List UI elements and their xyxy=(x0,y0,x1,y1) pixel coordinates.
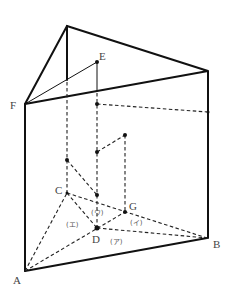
label-A: A xyxy=(13,274,21,286)
point-dot xyxy=(65,158,69,162)
point-dot xyxy=(95,102,99,106)
point-D xyxy=(95,226,100,231)
prism-diagram: A B C D E F G (ア) (イ) (ウ) (エ) xyxy=(0,0,233,298)
region-label-e: (エ) xyxy=(66,221,79,229)
edge-AC xyxy=(25,193,67,271)
region-label-a: (ア) xyxy=(110,238,123,246)
point-G xyxy=(123,210,127,214)
label-F: F xyxy=(10,99,16,111)
edge-CB xyxy=(67,193,207,238)
point-dot xyxy=(95,193,99,197)
projection-segment-2 xyxy=(67,160,97,195)
point-C xyxy=(66,192,69,195)
region-label-i: (イ) xyxy=(130,219,143,227)
point-dot xyxy=(95,150,99,154)
label-D: D xyxy=(92,233,100,245)
point-dot xyxy=(123,133,127,137)
region-label-u: (ウ) xyxy=(91,209,104,217)
label-B: B xyxy=(213,238,220,250)
label-E: E xyxy=(99,50,106,62)
top-face xyxy=(25,26,208,104)
segment-DB xyxy=(97,228,207,238)
label-G: G xyxy=(129,200,137,212)
point-dot xyxy=(207,111,210,114)
projection-to-right-face xyxy=(97,104,208,112)
label-C: C xyxy=(55,184,62,196)
projection-segment xyxy=(97,135,125,152)
